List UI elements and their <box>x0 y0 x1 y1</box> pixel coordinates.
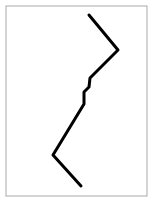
figure-svg <box>0 0 154 203</box>
figure-canvas <box>0 0 154 203</box>
image-border-frame <box>6 6 147 196</box>
